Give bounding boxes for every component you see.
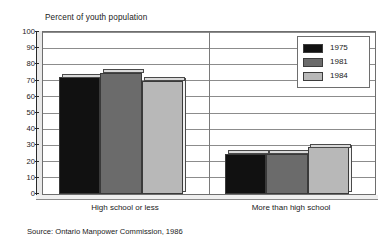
y-axis-tick-mark [35, 177, 39, 178]
y-axis-tick-label: 80 [13, 59, 35, 68]
y-axis-tick-label: 50 [13, 108, 35, 117]
legend-label-1984: 1984 [330, 72, 348, 80]
bar-front-face [142, 81, 183, 194]
bar-1981-0 [100, 73, 141, 195]
chart-figure: Percent of youth population 010203040506… [0, 0, 389, 250]
y-axis-tick-mark [35, 31, 39, 32]
bar-top-face [103, 69, 144, 73]
bar-1975-1 [225, 154, 266, 195]
y-axis-tick-label: 100 [13, 27, 35, 36]
source-note: Source: Ontario Manpower Commission, 198… [27, 227, 183, 236]
bar-top-face [228, 150, 269, 154]
chart-legend: 197519811984 [297, 36, 370, 88]
y-axis-tick-mark [35, 63, 39, 64]
bar-front-face [308, 147, 349, 194]
y-axis-tick-label: 0 [13, 189, 35, 198]
bar-front-face [59, 77, 100, 194]
bar-top-face [269, 150, 310, 154]
legend-label-1981: 1981 [330, 58, 348, 66]
legend-label-1975: 1975 [330, 44, 348, 52]
y-axis-tick-mark [35, 161, 39, 162]
y-axis-tick-label: 10 [13, 172, 35, 181]
bar-front-face [266, 154, 307, 195]
y-axis-tick-label: 70 [13, 75, 35, 84]
y-axis-tick-mark [35, 80, 39, 81]
bar-1984-1 [308, 147, 349, 194]
bar-1984-0 [142, 81, 183, 194]
legend-item-1975[interactable]: 1975 [303, 41, 364, 55]
y-axis-tick-mark [35, 112, 39, 113]
bar-front-face [225, 154, 266, 195]
y-axis-tick-label: 60 [13, 91, 35, 100]
y-axis-tick-mark [35, 128, 39, 129]
bar-top-face [62, 74, 103, 78]
legend-swatch-1981 [303, 58, 323, 67]
legend-item-1981[interactable]: 1981 [303, 55, 364, 69]
bar-top-face [144, 77, 185, 81]
y-axis-tick-mark [35, 144, 39, 145]
bar-1981-1 [266, 154, 307, 195]
category-label-0: High school or less [42, 203, 208, 212]
chart-title: Percent of youth population [45, 13, 147, 22]
y-axis-tick-label: 90 [13, 43, 35, 52]
group-divider [209, 32, 210, 194]
bar-front-face [100, 73, 141, 195]
y-axis-tick-label: 30 [13, 140, 35, 149]
y-axis-tick-mark [35, 193, 39, 194]
legend-swatch-1975 [303, 44, 323, 53]
bar-top-face [310, 144, 351, 148]
legend-item-1984[interactable]: 1984 [303, 69, 364, 83]
y-axis-tick-mark [35, 47, 39, 48]
bar-1975-0 [59, 77, 100, 194]
legend-swatch-1984 [303, 72, 323, 81]
y-axis-tick-label: 40 [13, 124, 35, 133]
y-axis-tick-mark [35, 96, 39, 97]
x-axis-base [36, 195, 378, 200]
category-label-1: More than high school [208, 203, 374, 212]
bar-side-face [182, 78, 186, 191]
y-axis-tick-label: 20 [13, 156, 35, 165]
bar-side-face [348, 145, 352, 192]
